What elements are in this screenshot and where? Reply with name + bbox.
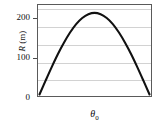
x-axis-label: θ0 [37,108,152,122]
range-vs-angle-figure: R (m) 200 100 0 θ0 [0,0,163,130]
y-axis-label-symbol: R [17,46,27,52]
plot-area [37,4,152,97]
range-curve [38,5,151,96]
y-tick-label-100: 100 [8,52,30,62]
y-axis-label-unit: (m) [17,31,27,44]
y-tick-label-0: 0 [8,92,30,102]
x-axis-label-subscript: 0 [95,114,99,122]
y-tick-label-200: 200 [8,12,30,22]
